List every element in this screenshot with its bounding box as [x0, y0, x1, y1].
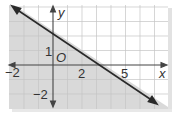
- x-tick-label-neg2: −2: [5, 65, 20, 80]
- y-tick-label-1: 1: [45, 44, 52, 59]
- x-tick-label-5: 5: [121, 66, 128, 81]
- x-axis-label: x: [158, 66, 166, 81]
- inequality-graph: y x O −2 2 5 1 −2: [0, 0, 183, 120]
- plot-shadow: [168, 8, 172, 112]
- x-tick-label-2: 2: [78, 66, 85, 81]
- origin-label: O: [56, 50, 66, 65]
- y-tick-label-neg2: −2: [33, 87, 48, 102]
- plot-shadow-bottom: [12, 109, 172, 112]
